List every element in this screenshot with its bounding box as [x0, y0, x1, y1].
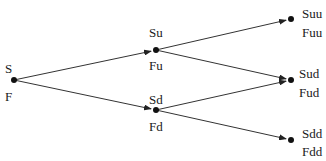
node-uu	[288, 16, 294, 22]
node-d	[153, 107, 159, 113]
label-u-price: Su	[149, 26, 163, 39]
edge-d-ud	[156, 81, 286, 110]
label-dd-price: Sdd	[302, 127, 322, 140]
label-uu-price: Suu	[302, 7, 322, 20]
edge-u-ud	[156, 50, 286, 79]
edge-d-dd	[156, 110, 286, 139]
node-root	[11, 77, 17, 83]
node-u	[153, 47, 159, 53]
node-ud	[288, 77, 294, 83]
node-dd	[288, 137, 294, 143]
label-d-value: Fd	[149, 120, 163, 133]
label-ud-price: Sud	[299, 67, 319, 80]
tree-diagram	[0, 0, 326, 161]
edge-root-u	[14, 51, 151, 80]
label-root-value: F	[5, 90, 12, 103]
label-root-price: S	[5, 62, 12, 75]
label-ud-value: Fud	[299, 86, 319, 99]
label-dd-value: Fdd	[302, 145, 322, 158]
label-d-price: Sd	[149, 93, 163, 106]
label-uu-value: Fuu	[302, 26, 322, 39]
label-u-value: Fu	[149, 59, 163, 72]
edge-u-uu	[156, 20, 286, 50]
edge-root-d	[14, 80, 151, 109]
